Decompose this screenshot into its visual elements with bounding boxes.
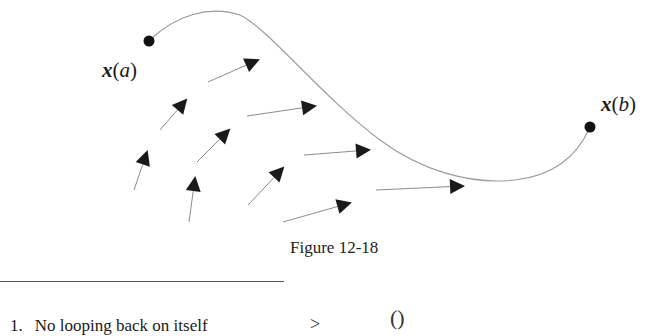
- start-label-arg: a: [120, 58, 131, 82]
- vector-arrow: [208, 58, 260, 82]
- start-label-var: x: [102, 58, 113, 82]
- arrow-head-icon: [186, 176, 201, 192]
- vector-arrow: [197, 129, 230, 162]
- arrow-head-icon: [356, 144, 372, 159]
- arrow-shaft: [248, 177, 274, 205]
- path-curve: [149, 11, 590, 181]
- list-item: 1.No looping back on itself: [10, 316, 208, 336]
- figure-caption: Figure 12-18: [290, 238, 378, 258]
- arrow-shaft: [160, 110, 177, 130]
- greater-than-symbol: >: [310, 314, 320, 335]
- section-divider: [0, 281, 284, 282]
- end-label-var: x: [601, 92, 612, 116]
- vector-arrow: [248, 167, 284, 206]
- start-point-label: x(a): [102, 60, 137, 81]
- end-point-label: x(b): [601, 94, 636, 115]
- end-point-dot: [585, 122, 596, 133]
- vector-arrow: [283, 199, 352, 222]
- vector-arrow: [247, 101, 317, 117]
- arrow-head-icon: [450, 179, 465, 194]
- arrow-shaft: [208, 65, 246, 82]
- arrow-head-icon: [172, 99, 188, 115]
- arrow-shaft: [197, 139, 220, 162]
- arrow-shaft: [304, 151, 356, 155]
- vector-arrow: [376, 179, 465, 194]
- list-item-number: 1.: [10, 316, 23, 335]
- arrow-shaft: [376, 187, 450, 190]
- vector-arrow: [304, 144, 371, 159]
- arrow-head-icon: [136, 150, 150, 167]
- arrow-head-icon: [335, 199, 352, 214]
- vector-arrow: [160, 99, 187, 131]
- arrow-shaft: [247, 108, 302, 116]
- list-item-text: No looping back on itself: [35, 316, 208, 335]
- arrow-shaft: [134, 164, 143, 190]
- vector-arrow: [186, 176, 201, 222]
- vector-field-arrows: [134, 58, 465, 222]
- paren-symbol: (): [390, 305, 405, 331]
- vector-arrow: [134, 150, 150, 190]
- end-label-arg: b: [619, 92, 630, 116]
- arrow-head-icon: [301, 101, 317, 116]
- start-point-dot: [144, 36, 155, 47]
- arrow-shaft: [283, 207, 337, 222]
- arrow-shaft: [189, 191, 193, 222]
